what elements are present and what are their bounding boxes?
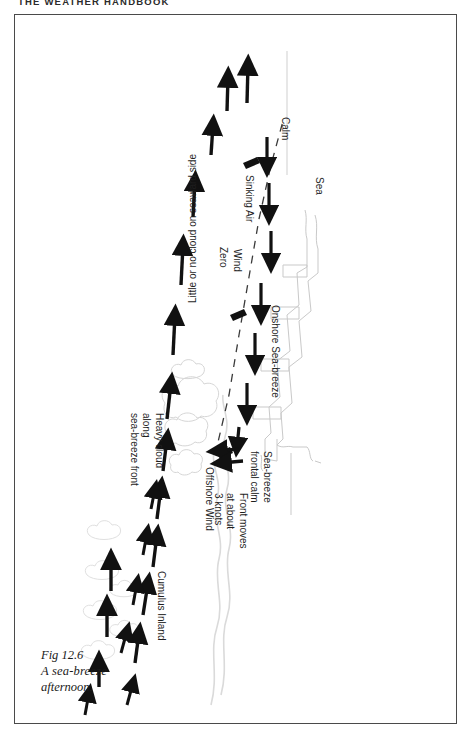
frontal-heavy-cloud: [162, 360, 219, 475]
label-front-moves-line2: at about: [224, 493, 237, 549]
figure-canvas: Cumulus Inland Heavy cloud along sea-bre…: [15, 15, 456, 723]
caption-line-1: Fig 12.6: [41, 647, 191, 663]
label-heavy-cloud-line3: sea-breeze front: [128, 413, 141, 486]
caption-line-3: afternoon.: [41, 679, 191, 695]
label-heavy-cloud: Heavy cloud along sea-breeze front: [128, 413, 166, 486]
ground-line: [211, 395, 231, 705]
label-front-moves: Front moves at about 3 knots: [212, 493, 250, 549]
figure-caption: Fig 12.6 A sea-breeze afternoon.: [41, 647, 191, 695]
label-little-or-no-cloud: Little or no cloud on seaward side: [187, 154, 199, 303]
label-front-moves-line3: 3 knots: [212, 493, 225, 549]
label-cumulus-inland: Cumulus Inland: [155, 571, 167, 640]
label-heavy-cloud-line2: along: [140, 413, 153, 486]
label-zero-wind-2: Wind: [231, 249, 243, 272]
diagram-graphics: [15, 15, 456, 723]
figure-frame: Cumulus Inland Heavy cloud along sea-bre…: [14, 14, 457, 724]
label-zero-wind-1: Zero: [217, 247, 229, 268]
label-onshore-sea-breeze: Onshore Sea-breeze: [269, 305, 281, 398]
label-sea: Sea: [313, 177, 325, 195]
label-heavy-cloud-line1: Heavy cloud: [153, 413, 166, 486]
page-header: THE WEATHER HANDBOOK: [18, 0, 318, 8]
caption-line-2: A sea-breeze: [41, 663, 191, 679]
label-sinking-air: Sinking Air: [243, 175, 255, 222]
label-frontal-calm-line2: frontal calm: [248, 451, 261, 503]
label-frontal-calm-line1: Sea-breeze: [261, 451, 274, 503]
frontal-boundary-dashed: [215, 121, 283, 455]
label-frontal-calm: Sea-breeze frontal calm: [248, 451, 273, 503]
label-calm: Calm: [279, 117, 291, 140]
